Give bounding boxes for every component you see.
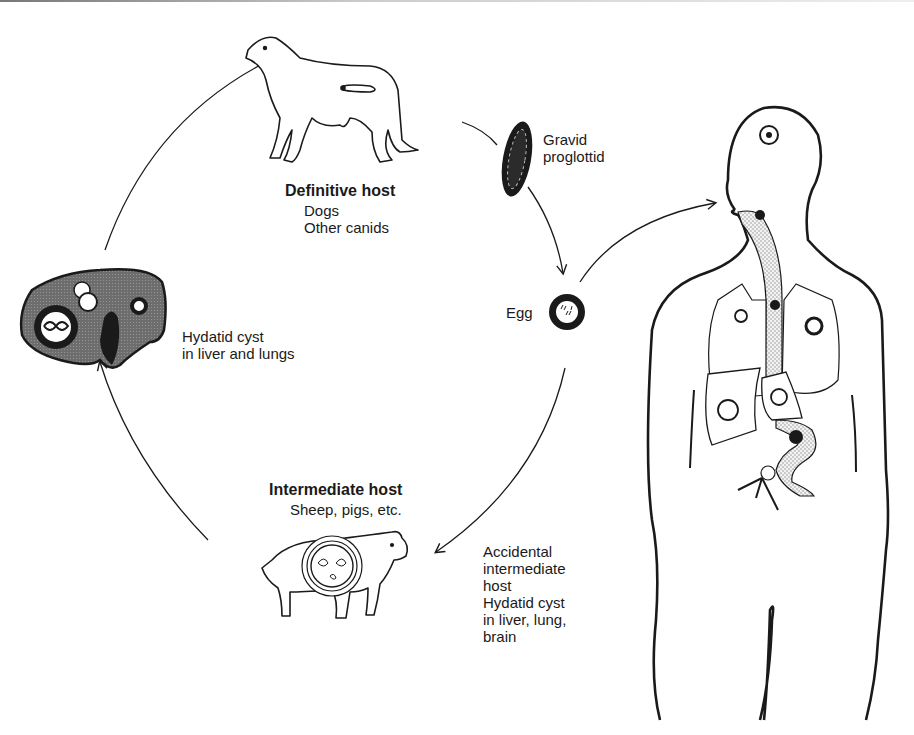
egg-label: Egg	[506, 304, 533, 321]
hydatid-cyst-label-line1: Hydatid cyst	[182, 328, 264, 345]
arrow-egg-to-human	[580, 203, 715, 282]
cycle-arrows	[100, 60, 715, 552]
hydatid-cyst-label-line2: in liver and lungs	[182, 345, 295, 362]
arrow-cyst-to-dog	[105, 60, 270, 250]
definitive-host-other-canids: Other canids	[304, 219, 389, 236]
accidental-host-line5: in liver, lung,	[483, 611, 566, 628]
definitive-host-heading: Definitive host	[285, 182, 395, 199]
arrow-dog-to-proglottid	[462, 122, 497, 145]
human-illustration	[648, 107, 888, 720]
intermediate-host-animals: Sheep, pigs, etc.	[290, 501, 402, 518]
accidental-host-line1: Accidental	[483, 543, 552, 560]
definitive-host-dogs: Dogs	[304, 202, 339, 219]
proglottid-label-line2: proglottid	[543, 148, 605, 165]
proglottid-illustration	[497, 119, 538, 199]
proglottid-label-line1: Gravid	[543, 131, 587, 148]
arrow-sheep-to-cyst	[100, 362, 208, 540]
intermediate-host-heading: Intermediate host	[269, 481, 402, 498]
accidental-host-line3: host	[483, 577, 511, 594]
accidental-host-line4: Hydatid cyst	[483, 594, 565, 611]
hydatid-organ-illustration	[21, 269, 165, 367]
dog-illustration	[246, 37, 418, 162]
arrow-egg-to-sheep	[436, 368, 565, 552]
egg-illustration	[549, 294, 585, 330]
accidental-host-line6: brain	[483, 628, 516, 645]
accidental-host-line2: intermediate	[483, 560, 566, 577]
life-cycle-artwork	[0, 0, 914, 735]
sheep-illustration	[262, 532, 407, 618]
arrow-proglottid-to-egg	[528, 187, 563, 273]
